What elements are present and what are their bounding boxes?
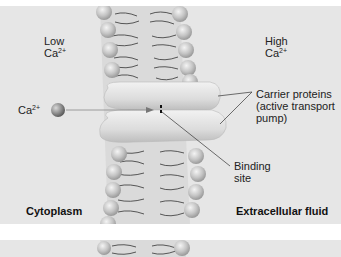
carrier-proteins-label: Carrier proteins (active transport pump)	[256, 88, 335, 124]
binding-site-label: Binding site	[234, 160, 271, 184]
high-calcium-label: High Ca2+	[265, 35, 288, 59]
cytoplasm-label: Cytoplasm	[26, 205, 82, 217]
calcium-ion	[51, 103, 65, 117]
calcium-ion-label: Ca2+	[18, 104, 40, 116]
low-calcium-label: Low Ca2+	[44, 35, 66, 59]
membrane-diagram-panel: Low Ca2+ High Ca2+ Ca2+ Carrier proteins…	[0, 6, 341, 224]
extracellular-fluid-label: Extracellular fluid	[236, 205, 328, 217]
membrane-illustration-partial	[0, 240, 341, 257]
next-diagram-panel-partial	[0, 240, 341, 257]
carrier-proteins	[100, 82, 227, 142]
